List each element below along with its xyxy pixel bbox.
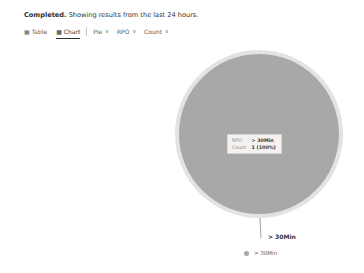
legend-swatch-icon: [244, 251, 249, 256]
chart-tooltip: RPO > 30Min Count 1 (100%): [227, 134, 282, 154]
tooltip-value: > 30Min: [252, 138, 274, 143]
slice-label: > 30Min: [268, 233, 296, 240]
leader-line: [260, 218, 261, 238]
tooltip-value: 1 (100%): [252, 145, 276, 150]
legend-item-label[interactable]: > 30Min: [254, 250, 277, 256]
tooltip-row: Count 1 (100%): [232, 144, 277, 151]
tooltip-row: RPO > 30Min: [232, 137, 277, 144]
chart-legend: > 30Min: [244, 250, 277, 256]
tooltip-key: Count: [232, 144, 250, 151]
tooltip-key: RPO: [232, 137, 250, 144]
pie-chart: [0, 0, 364, 273]
